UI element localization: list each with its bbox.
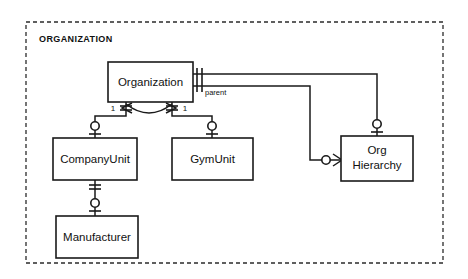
subject-area-title: ORGANIZATION [39, 34, 113, 44]
entity-label-line1: Org [367, 144, 386, 156]
connector-line [193, 74, 377, 136]
entity-label: Organization [118, 76, 183, 88]
cardinality-label-right: 1 [183, 104, 188, 113]
zero-or-one-circle [208, 122, 216, 130]
cardinality-label-left: 1 [111, 104, 116, 113]
entity-manufacturer[interactable]: Manufacturer [56, 216, 138, 258]
zero-or-one-circle [91, 199, 99, 207]
zero-or-many-circle [322, 156, 330, 164]
entity-gym-unit[interactable]: GymUnit [172, 138, 253, 180]
er-diagram-canvas: ORGANIZATION 1 1 [0, 0, 468, 279]
relationship-label-parent: parent [205, 88, 227, 97]
entity-label-line2: Hierarchy [352, 159, 401, 171]
relationship-org-to-gymunit: 1 [166, 102, 218, 138]
exclusive-arc [126, 104, 172, 113]
entity-company-unit[interactable]: CompanyUnit [53, 138, 137, 180]
connector-line [172, 102, 212, 138]
relationship-companyunit-to-manufacturer [89, 180, 101, 216]
entity-label: CompanyUnit [60, 153, 130, 165]
entity-label: Manufacturer [63, 231, 131, 243]
entity-org-hierarchy[interactable]: Org Hierarchy [341, 136, 413, 181]
relationship-org-to-companyunit: 1 [89, 102, 132, 138]
entity-label: GymUnit [190, 153, 236, 165]
zero-or-one-circle [373, 120, 381, 128]
entity-organization[interactable]: Organization [108, 62, 193, 102]
relationship-org-to-orghierarchy-top [193, 68, 383, 136]
er-diagram-root: ORGANIZATION 1 1 [0, 0, 468, 279]
zero-or-one-circle [91, 122, 99, 130]
